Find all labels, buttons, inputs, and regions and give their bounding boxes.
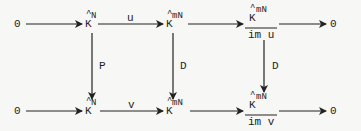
top-zero-start: 0	[14, 19, 21, 30]
label-D-col2: D	[180, 61, 187, 72]
label-D-col3: D	[272, 61, 279, 72]
denominator: im v	[248, 117, 274, 128]
label-P: P	[99, 61, 106, 72]
node-superscript: mN	[172, 99, 183, 108]
node-superscript: N	[91, 99, 96, 108]
label-v: v	[128, 100, 135, 111]
numerator-superscript: mN	[256, 93, 267, 102]
numerator-superscript: mN	[256, 6, 267, 15]
denominator: im u	[248, 30, 274, 41]
label-u: u	[127, 13, 134, 24]
bottom-zero-start: 0	[14, 106, 21, 117]
numerator-base: K	[249, 13, 256, 24]
node-superscript: N	[91, 12, 96, 21]
bottom-zero-end: 0	[330, 106, 337, 117]
top-zero-end: 0	[330, 19, 337, 30]
numerator-base: K	[249, 100, 256, 111]
node-superscript: mN	[172, 12, 183, 21]
